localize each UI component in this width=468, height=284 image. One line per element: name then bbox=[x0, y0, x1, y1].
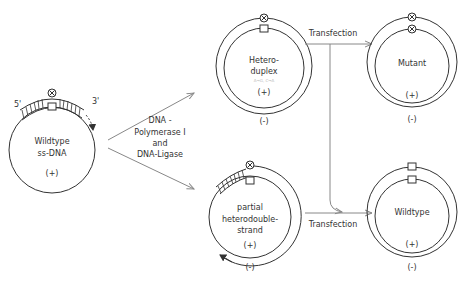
wildtype-site-icon bbox=[408, 176, 416, 183]
partial-inner-strand: (+) bbox=[244, 241, 257, 250]
start-strand-label: (+) bbox=[46, 169, 59, 178]
wildtype-site-icon bbox=[260, 25, 268, 32]
strand-direction-arrow-icon bbox=[220, 255, 232, 262]
wildtype-site-icon bbox=[408, 163, 416, 170]
mutation-site-icon bbox=[260, 14, 268, 22]
wildtype-outer-strand: (-) bbox=[407, 263, 416, 272]
partial-line1: partial bbox=[237, 203, 263, 212]
enzyme-line2: Polymerase I bbox=[134, 128, 185, 137]
heteroduplex-outer-strand: (-) bbox=[259, 117, 268, 126]
partial-line3: strand bbox=[237, 226, 263, 235]
partial-line2: heterodouble- bbox=[222, 215, 278, 224]
heteroduplex-line1: Hetero- bbox=[249, 56, 279, 65]
heteroduplex-inner-strand: (+) bbox=[258, 88, 271, 97]
start-label-line2: ss-DNA bbox=[38, 149, 67, 158]
heteroduplex-annotation: A→G, C→A bbox=[254, 78, 275, 83]
primer-hatch bbox=[216, 169, 248, 194]
partial-outer-strand: (-) bbox=[245, 263, 254, 272]
partial-heterodoublestrand-circle bbox=[209, 161, 301, 266]
extension-arrow-icon bbox=[86, 115, 93, 130]
enzyme-line1: DNA - bbox=[148, 116, 171, 125]
mutant-label: Mutant bbox=[398, 59, 426, 68]
mutant-inner-strand: (+) bbox=[406, 91, 419, 100]
five-prime-label: 5' bbox=[14, 100, 21, 109]
mutant-outer-strand: (-) bbox=[407, 115, 416, 124]
enzyme-line3: and bbox=[152, 139, 167, 148]
mutagenesis-diagram: 5' 3' Wildtype ss-DNA (+) DNA - Polymera… bbox=[0, 0, 468, 284]
mutation-site-icon bbox=[48, 89, 56, 97]
arrow-heteroduplex-repair bbox=[330, 44, 342, 212]
wildtype-label: Wildtype bbox=[394, 208, 429, 217]
enzyme-line4: DNA-Ligase bbox=[137, 150, 183, 159]
transfection-bottom-label: Transfection bbox=[308, 220, 358, 229]
wildtype-site-icon bbox=[246, 177, 254, 184]
three-prime-label: 3' bbox=[92, 97, 99, 106]
wildtype-inner-strand: (+) bbox=[406, 240, 419, 249]
wildtype-site-icon bbox=[48, 103, 56, 110]
start-label-line1: Wildtype bbox=[34, 137, 69, 146]
mutation-site-icon bbox=[408, 13, 416, 21]
transfection-top-label: Transfection bbox=[308, 29, 358, 38]
heteroduplex-line2: duplex bbox=[251, 67, 278, 76]
mutation-site-icon bbox=[246, 161, 254, 169]
mutation-site-icon bbox=[408, 25, 416, 33]
